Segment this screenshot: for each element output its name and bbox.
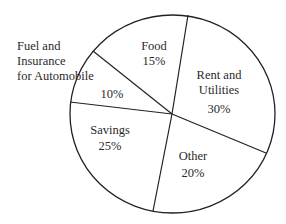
slice-label-food: Food 15%: [141, 39, 167, 68]
svg-text:Other: Other: [179, 149, 208, 163]
svg-text:Fuel and: Fuel and: [17, 39, 61, 53]
svg-text:20%: 20%: [182, 166, 205, 180]
pie-chart: Food 15% Rent and Utilities 30% Other 20…: [0, 0, 286, 224]
svg-text:10%: 10%: [101, 87, 124, 101]
svg-text:Utilities: Utilities: [199, 83, 239, 97]
svg-text:25%: 25%: [99, 139, 122, 153]
svg-text:for Automobile: for Automobile: [17, 69, 94, 83]
svg-text:Rent and: Rent and: [197, 68, 243, 82]
svg-text:30%: 30%: [208, 102, 231, 116]
svg-text:Savings: Savings: [90, 123, 130, 137]
svg-text:Insurance: Insurance: [17, 54, 66, 68]
svg-text:15%: 15%: [143, 54, 166, 68]
svg-text:Food: Food: [141, 39, 167, 53]
